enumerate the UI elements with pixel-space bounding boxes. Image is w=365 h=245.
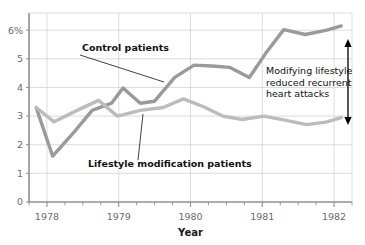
x-tick-label: 1980 — [178, 211, 202, 222]
x-tick-label: 1979 — [107, 211, 131, 222]
x-tick-label: 1982 — [322, 211, 346, 222]
difference-note-line: reduced recurrent — [266, 77, 352, 88]
control-patients-callout: Control patients — [82, 42, 169, 53]
chart-figure: Control patientsLifestyle modification p… — [0, 0, 365, 245]
difference-note-line: heart attacks — [266, 88, 329, 99]
y-tick-label: 4 — [17, 82, 23, 93]
y-tick-label: 2 — [17, 139, 23, 150]
y-tick-label: 5 — [17, 53, 23, 64]
difference-note-line: Modifying lifestyle — [266, 65, 353, 76]
lifestyle-patients-callout: Lifestyle modification patients — [88, 158, 252, 169]
x-tick-label: 1978 — [35, 211, 59, 222]
y-tick-label: 0 — [17, 196, 23, 207]
y-tick-label: 6% — [8, 25, 23, 36]
x-tick-label: 1981 — [250, 211, 274, 222]
y-tick-label: 1 — [17, 168, 23, 179]
x-axis-title: Year — [177, 227, 203, 238]
y-tick-label: 3 — [17, 110, 23, 121]
chart-canvas: Control patientsLifestyle modification p… — [0, 0, 365, 245]
